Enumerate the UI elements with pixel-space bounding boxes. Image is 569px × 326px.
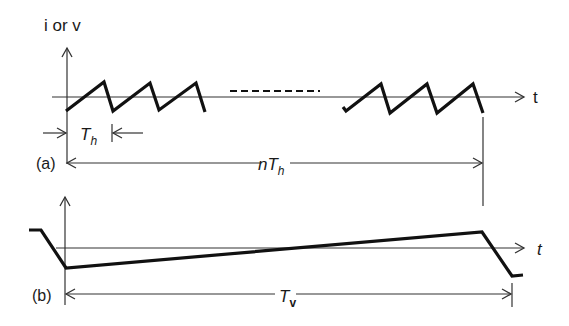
sawtooth-timing-diagram: i or v t Th nTh (a) t Tv (b) xyxy=(0,0,569,326)
panel-b: t Tv (b) xyxy=(29,197,543,310)
panel-a-label: (a) xyxy=(36,155,56,172)
panel-a-sawtooth-right xyxy=(343,84,483,113)
th-label: Th xyxy=(80,125,97,148)
panel-b-ramp-waveform xyxy=(29,230,523,276)
nth-label: nTh xyxy=(258,155,285,178)
y-axis-label: i or v xyxy=(44,16,81,35)
tv-label: Tv xyxy=(279,287,296,310)
panel-b-label: (b) xyxy=(32,287,52,304)
panel-b-t-label: t xyxy=(537,240,543,259)
panel-a-t-label: t xyxy=(533,88,538,107)
panel-a: i or v t Th nTh (a) xyxy=(36,16,538,206)
